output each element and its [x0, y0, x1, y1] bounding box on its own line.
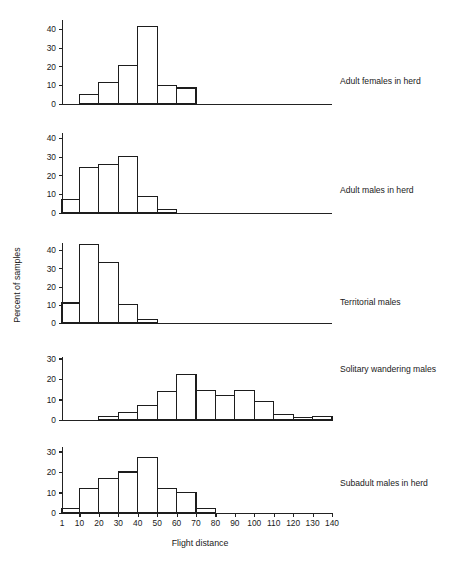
- histogram-bar: [274, 415, 293, 420]
- histogram-bar: [293, 418, 312, 420]
- y-tick-label: 30: [47, 447, 57, 457]
- x-tick-label: 140: [325, 518, 339, 528]
- y-tick-label: 20: [47, 171, 57, 181]
- x-tick-label: 90: [230, 518, 240, 528]
- histogram-bar: [157, 85, 176, 104]
- histogram-bar: [99, 263, 118, 323]
- histogram-bar: [138, 406, 157, 420]
- histogram-bar: [79, 168, 98, 213]
- y-tick-label: 20: [47, 467, 57, 477]
- histogram-bar: [79, 245, 98, 323]
- y-tick-label: 30: [47, 43, 57, 53]
- histogram-bar: [157, 391, 176, 420]
- y-tick-label: 0: [51, 508, 56, 518]
- shared-x-axis: 1102030405060708090100110120130140: [60, 513, 340, 528]
- histogram-bar: [157, 488, 176, 513]
- x-tick-label: 50: [153, 518, 163, 528]
- x-tick-label: 20: [94, 518, 104, 528]
- x-tick-label: 80: [211, 518, 221, 528]
- histogram-bar: [99, 478, 118, 513]
- histogram-bar: [196, 509, 215, 513]
- histogram-bar: [118, 157, 137, 213]
- histogram-bar: [62, 303, 79, 323]
- histogram-panel: 010203040Adult males in herd: [47, 133, 414, 218]
- panels-group: 010203040Adult females in herd010203040A…: [47, 20, 436, 518]
- histogram-bar: [177, 88, 196, 104]
- histogram-panel: 010203040Adult females in herd: [47, 20, 421, 109]
- histogram-bar: [79, 95, 98, 104]
- histogram-panel: 0102030Subadult males in herd: [47, 447, 428, 518]
- histogram-bar: [62, 509, 79, 513]
- histogram-panel: 010203040Territorial males: [47, 243, 401, 328]
- histogram-bar: [138, 196, 157, 213]
- x-tick-label: 110: [267, 518, 281, 528]
- histogram-bar: [235, 390, 254, 420]
- figure-container: 010203040Adult females in herd010203040A…: [0, 0, 461, 564]
- y-tick-label: 10: [47, 300, 57, 310]
- panel-label: Adult males in herd: [340, 185, 414, 195]
- panel-label: Adult females in herd: [340, 76, 421, 86]
- x-axis-title: Flight distance: [172, 538, 229, 548]
- x-tick-label: 1: [60, 518, 65, 528]
- y-axis-title: Percent of samples: [12, 247, 22, 323]
- histogram-bar: [196, 390, 215, 420]
- histogram-bar: [99, 417, 118, 420]
- x-tick-label: 70: [191, 518, 201, 528]
- y-tick-label: 30: [47, 354, 57, 364]
- histogram-bar: [157, 209, 176, 213]
- x-tick-label: 30: [114, 518, 124, 528]
- histogram-bar: [215, 395, 234, 420]
- histogram-bar: [62, 200, 79, 213]
- y-tick-label: 10: [47, 395, 57, 405]
- y-tick-label: 0: [51, 318, 56, 328]
- histogram-bar: [118, 472, 137, 513]
- y-tick-label: 40: [47, 24, 57, 34]
- panel-label: Solitary wandering males: [340, 364, 436, 374]
- x-tick-label: 40: [133, 518, 143, 528]
- y-tick-label: 10: [47, 189, 57, 199]
- y-tick-label: 0: [51, 415, 56, 425]
- x-tick-label: 130: [306, 518, 320, 528]
- histogram-bar: [138, 27, 157, 104]
- histogram-panel: 0102030Solitary wandering males: [47, 354, 436, 426]
- y-tick-label: 0: [51, 208, 56, 218]
- y-tick-label: 10: [47, 488, 57, 498]
- x-tick-label: 10: [75, 518, 85, 528]
- histogram-bar: [254, 402, 273, 420]
- histogram-bar: [99, 164, 118, 213]
- y-tick-label: 20: [47, 62, 57, 72]
- y-tick-label: 0: [51, 99, 56, 109]
- x-tick-label: 60: [172, 518, 182, 528]
- histogram-bar: [177, 493, 196, 514]
- y-tick-label: 40: [47, 245, 57, 255]
- histogram-bar: [79, 488, 98, 513]
- y-tick-label: 20: [47, 282, 57, 292]
- histogram-bar: [99, 82, 118, 104]
- histogram-bar: [118, 305, 137, 323]
- y-tick-label: 10: [47, 80, 57, 90]
- histogram-bar: [177, 375, 196, 420]
- histogram-bar: [138, 319, 157, 323]
- x-tick-label: 120: [286, 518, 300, 528]
- histogram-bar: [118, 413, 137, 420]
- x-tick-label: 100: [247, 518, 261, 528]
- histogram-bar: [313, 417, 332, 420]
- histogram-bar: [138, 458, 157, 513]
- y-tick-label: 30: [47, 152, 57, 162]
- y-tick-label: 20: [47, 374, 57, 384]
- y-tick-label: 30: [47, 264, 57, 274]
- histogram-bar: [118, 65, 137, 104]
- histogram-figure: 010203040Adult females in herd010203040A…: [0, 0, 461, 564]
- panel-label: Subadult males in herd: [340, 478, 428, 488]
- panel-label: Territorial males: [340, 297, 401, 307]
- y-tick-label: 40: [47, 133, 57, 143]
